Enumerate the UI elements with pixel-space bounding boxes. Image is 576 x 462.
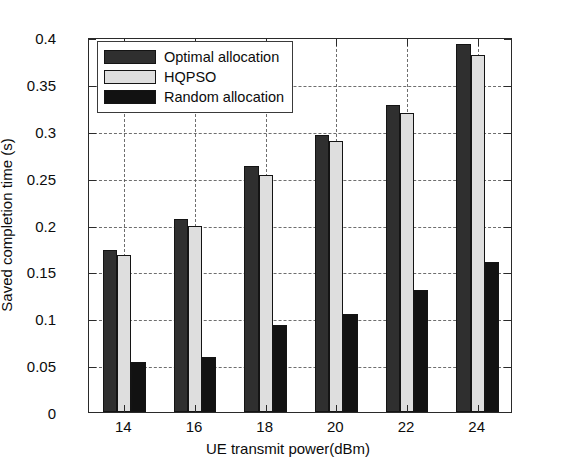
- bar: [259, 175, 273, 412]
- y-axis-tick-label: 0.15: [0, 264, 56, 281]
- bar: [244, 166, 258, 412]
- bar: [414, 290, 428, 412]
- y-axis-tick: [89, 227, 96, 228]
- y-axis-tick-label: 0: [0, 405, 56, 422]
- y-axis-tick-label: 0.05: [0, 358, 56, 375]
- bar: [386, 105, 400, 412]
- x-axis-tick: [195, 405, 196, 412]
- y-axis-tick-label: 0.2: [0, 217, 56, 234]
- y-axis-tick-label: 0.35: [0, 76, 56, 93]
- x-axis-tick-label: 16: [164, 418, 224, 435]
- x-axis-tick: [407, 405, 408, 412]
- y-axis-tick: [89, 39, 96, 40]
- legend-item: Optimal allocation: [104, 47, 284, 67]
- y-axis-tick: [89, 180, 96, 181]
- y-axis-tick-label: 0.1: [0, 311, 56, 328]
- y-axis-tick: [504, 273, 511, 274]
- legend-label: Optimal allocation: [164, 50, 279, 65]
- x-axis-tick: [478, 39, 479, 46]
- y-axis-tick: [89, 367, 96, 368]
- y-axis-tick: [504, 227, 511, 228]
- x-axis-title: UE transmit power(dBm): [0, 440, 576, 457]
- y-axis-tick: [89, 320, 96, 321]
- y-axis-tick: [89, 133, 96, 134]
- legend-label: HQPSO: [164, 70, 216, 85]
- y-axis-tick: [504, 86, 511, 87]
- x-axis-tick: [407, 39, 408, 46]
- bar: [471, 55, 485, 412]
- bar: [329, 141, 343, 412]
- x-axis-tick: [336, 39, 337, 46]
- legend: Optimal allocationHQPSORandom allocation: [97, 41, 293, 113]
- bar: [456, 44, 470, 412]
- y-axis-tick: [89, 86, 96, 87]
- bar: [188, 226, 202, 412]
- x-axis-tick-label: 24: [447, 418, 507, 435]
- legend-swatch: [104, 70, 156, 84]
- legend-swatch: [104, 50, 156, 64]
- bar-chart-figure: Saved completion time (s) UE transmit po…: [0, 0, 576, 462]
- legend-label: Random allocation: [164, 90, 284, 105]
- legend-item: HQPSO: [104, 67, 284, 87]
- x-axis-tick-label: 22: [376, 418, 436, 435]
- y-axis-tick-label: 0.3: [0, 123, 56, 140]
- legend-swatch: [104, 90, 156, 104]
- x-axis-tick-label: 14: [93, 418, 153, 435]
- y-axis-tick-label: 0.25: [0, 170, 56, 187]
- y-axis-tick: [504, 180, 511, 181]
- bar: [174, 219, 188, 412]
- y-axis-tick-label: 0.4: [0, 30, 56, 47]
- x-axis-tick: [336, 405, 337, 412]
- bar: [117, 255, 131, 412]
- bar: [131, 362, 145, 412]
- y-axis-tick: [504, 320, 511, 321]
- x-axis-tick: [266, 405, 267, 412]
- y-axis-tick: [89, 273, 96, 274]
- bar: [103, 250, 117, 412]
- x-axis-tick: [124, 405, 125, 412]
- bar: [273, 325, 287, 412]
- x-axis-tick: [478, 405, 479, 412]
- y-axis-tick: [504, 367, 511, 368]
- x-axis-tick-label: 20: [305, 418, 365, 435]
- y-axis-tick: [504, 133, 511, 134]
- legend-item: Random allocation: [104, 87, 284, 107]
- bar: [343, 314, 357, 412]
- x-axis-tick-label: 18: [235, 418, 295, 435]
- bar: [485, 262, 499, 412]
- bar: [400, 113, 414, 412]
- bar: [202, 357, 216, 412]
- y-axis-tick: [504, 39, 511, 40]
- bar: [315, 135, 329, 412]
